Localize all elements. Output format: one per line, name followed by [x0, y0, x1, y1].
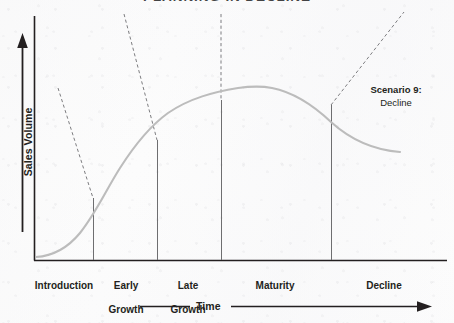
scenario-annotation: Scenario 9: Decline [348, 84, 444, 109]
leader-line-introduction [58, 88, 93, 198]
stage-label-late-growth-line2: Growth [171, 304, 206, 315]
arrow-right-icon [417, 301, 432, 312]
stage-label-introduction: Introduction [26, 268, 102, 292]
sales-volume-curve [36, 87, 400, 258]
stage-dividers [94, 100, 332, 260]
leader-line-early-growth [124, 14, 157, 140]
scenario-annotation-title: Scenario 9: [348, 84, 444, 97]
stage-label-decline-line1: Decline [366, 280, 402, 291]
product-life-cycle-figure: PLANNING IN DECLINE [0, 0, 454, 323]
stage-label-maturity-line1: Maturity [256, 280, 295, 291]
stage-label-maturity: Maturity [232, 268, 318, 292]
stage-label-early-growth-line2: Growth [109, 304, 144, 315]
stage-label-introduction-line1: Introduction [35, 280, 93, 291]
stage-label-late-growth: Late Growth [158, 268, 218, 316]
stage-label-decline: Decline [342, 268, 426, 292]
stage-label-early-growth: Early Growth [96, 268, 156, 316]
y-axis-label: Sales Volume [22, 92, 34, 192]
scenario-annotation-subtitle: Decline [348, 97, 444, 110]
stage-label-early-growth-line1: Early [114, 280, 138, 291]
stage-label-late-growth-line1: Late [178, 280, 199, 291]
